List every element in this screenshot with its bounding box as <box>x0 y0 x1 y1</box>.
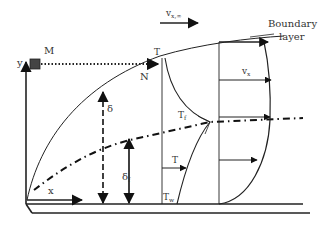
delta-label: δ <box>107 103 113 114</box>
boundary-layer-edge-curve <box>27 36 284 200</box>
boundary-layer-diagram: y x M N vx,∞ Boundary layer δ δf T Tf T … <box>0 0 327 227</box>
vx-label: vx <box>241 66 251 77</box>
t-edge-label: T <box>154 47 160 57</box>
x-axis-label: x <box>48 185 54 196</box>
t-f-label: Tf <box>178 110 187 121</box>
t-wall-label: Tw <box>163 192 175 203</box>
thermal-boundary-layer-curve <box>34 118 303 190</box>
flat-plate <box>26 204 310 213</box>
boundary-layer-label-2: layer <box>279 31 305 42</box>
y-axis-label: y <box>16 57 23 68</box>
point-m-marker <box>30 59 40 69</box>
free-stream-label: vx,∞ <box>165 8 181 19</box>
point-m-label: M <box>44 45 54 56</box>
boundary-layer-label: Boundary <box>268 18 317 29</box>
t-local-label: T <box>172 155 178 165</box>
point-n-label: N <box>140 71 149 82</box>
